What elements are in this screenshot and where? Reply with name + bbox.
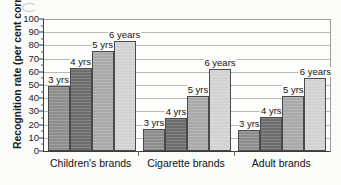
bar-data-label: 4 yrs [69,57,92,67]
bar-group-bars: 3 yrs4 yrs5 yrs6 years [139,19,234,151]
bar[interactable] [70,68,92,151]
bar[interactable] [48,86,70,151]
x-axis-labels: Children's brandsCigarette brandsAdult b… [43,157,329,169]
bar[interactable] [114,41,136,151]
bar-slot: 4 yrs [70,19,92,151]
x-axis-category-label: Children's brands [43,157,138,169]
bar-data-label: 6 years [203,58,236,68]
plot-area: 0102030405060708090100 3 yrs4 yrs5 yrs6 … [43,19,331,152]
x-axis-group-separator [138,151,139,156]
bar-data-label: 6 years [108,30,141,40]
bar[interactable] [238,130,260,151]
bar-data-label: 3 yrs [143,118,166,128]
bar-slot: 6 years [209,19,231,151]
y-axis-tick-label: 90 [0,27,39,37]
bar-slot: 3 yrs [48,19,70,151]
x-axis-category-label: Cigarette brands [138,157,233,169]
bar-data-label: 3 yrs [238,119,261,129]
bar-data-label: 3 yrs [47,75,70,85]
bar[interactable] [282,96,304,151]
bar-group-bars: 3 yrs4 yrs5 yrs6 years [44,19,139,151]
bar[interactable] [260,117,282,151]
bar-slot: 5 yrs [187,19,209,151]
bar-slot: 6 years [304,19,326,151]
y-axis-tick-label: 10 [0,133,39,143]
bar-data-label: 4 yrs [165,107,188,117]
bar-slot: 3 yrs [238,19,260,151]
bar-group: 3 yrs4 yrs5 yrs6 years [44,19,139,151]
x-axis-group-separator [234,151,235,156]
bar-group-bars: 3 yrs4 yrs5 yrs6 years [235,19,330,151]
bar-slot: 5 yrs [282,19,304,151]
y-axis-tick-label: 100 [0,14,39,24]
bar[interactable] [304,78,326,151]
y-axis-tick-label: 80 [0,41,39,51]
y-axis-tick-label: 30 [0,107,39,117]
bar-chart: Recognition rate (per cent correct) 0102… [0,0,341,185]
bar-data-label: 5 yrs [91,40,114,50]
y-axis-tick-label: 20 [0,120,39,130]
bar-group: 3 yrs4 yrs5 yrs6 years [139,19,234,151]
bar-group: 3 yrs4 yrs5 yrs6 years [235,19,330,151]
bar-data-label: 6 years [299,67,332,77]
bar-data-label: 4 yrs [260,106,283,116]
y-axis-tick-label: 0 [0,146,39,156]
bar[interactable] [92,51,114,151]
bar-slot: 3 yrs [143,19,165,151]
bar[interactable] [209,69,231,151]
bar-slot: 4 yrs [165,19,187,151]
bar-slot: 6 years [114,19,136,151]
bar-slot: 4 yrs [260,19,282,151]
bar[interactable] [187,96,209,151]
y-axis-tick-label: 70 [0,54,39,64]
bar-groups: 3 yrs4 yrs5 yrs6 years3 yrs4 yrs5 yrs6 y… [44,19,330,151]
bar[interactable] [143,129,165,151]
x-axis-category-label: Adult brands [234,157,329,169]
y-axis-tick-label: 60 [0,67,39,77]
y-axis-tick-label: 50 [0,80,39,90]
bar-data-label: 5 yrs [187,85,210,95]
y-axis-tick-label: 40 [0,93,39,103]
bar[interactable] [165,118,187,151]
bar-data-label: 5 yrs [282,85,305,95]
